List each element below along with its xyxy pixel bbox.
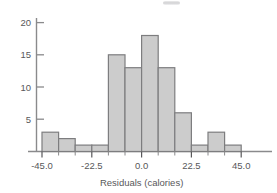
- histogram-bar: [142, 36, 159, 152]
- x-tick-label-neg22-5: -22.5: [81, 160, 103, 171]
- histogram-bar: [59, 139, 76, 152]
- x-axis-title: Residuals (calories): [100, 177, 183, 188]
- histogram-bar: [225, 145, 242, 151]
- histogram-bar: [75, 145, 92, 151]
- histogram-bar: [175, 113, 192, 152]
- histogram-bar: [125, 68, 142, 152]
- histogram-bar: [158, 68, 175, 152]
- x-tick-label-22-5: 22.5: [182, 160, 201, 171]
- histogram-bar: [191, 145, 208, 151]
- y-tick-label-20: 20: [20, 17, 31, 28]
- x-tick-label-0: 0.0: [135, 160, 148, 171]
- y-tick-label-5: 5: [26, 114, 31, 125]
- chart-plot-area: 20 15 10 5: [0, 0, 277, 193]
- x-axis-tick-labels: -45.0 -22.5 0.0 22.5 45.0: [31, 160, 250, 171]
- histogram-bar: [92, 145, 109, 151]
- y-axis-tick-labels: 20 15 10 5: [20, 17, 31, 125]
- y-tick-label-10: 10: [20, 82, 31, 93]
- x-axis-ticks: [42, 152, 241, 158]
- histogram-bars: [42, 36, 241, 152]
- x-tick-label-neg45: -45.0: [31, 160, 53, 171]
- histogram-bar: [208, 132, 225, 151]
- y-axis-ticks: [37, 23, 45, 120]
- x-tick-label-45: 45.0: [232, 160, 251, 171]
- histogram-chart: 20 15 10 5: [0, 0, 277, 193]
- histogram-bar: [108, 55, 125, 152]
- histogram-bar: [42, 132, 59, 151]
- y-tick-label-15: 15: [20, 49, 31, 60]
